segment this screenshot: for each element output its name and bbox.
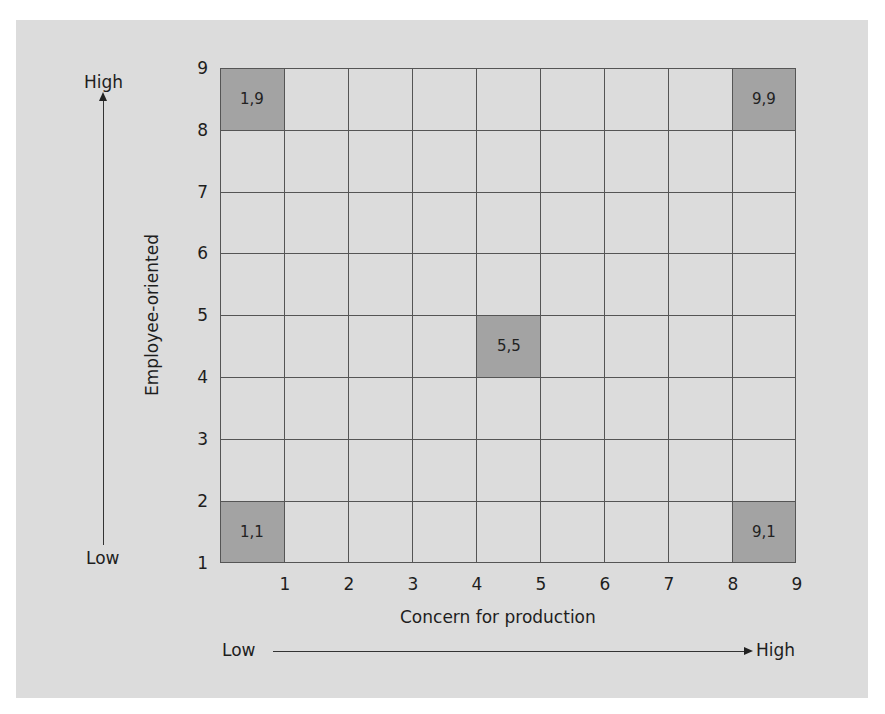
y-tick: 3 [188, 429, 208, 449]
y-low-label: Low [86, 548, 119, 568]
y-tick: 5 [188, 305, 208, 325]
x-tick: 4 [467, 574, 487, 594]
x-tick: 7 [659, 574, 679, 594]
grid-line [220, 192, 796, 193]
x-axis-arrow-icon [273, 651, 745, 652]
x-tick: 2 [339, 574, 359, 594]
grid-line [220, 501, 796, 502]
y-tick: 2 [188, 491, 208, 511]
x-tick: 9 [787, 574, 807, 594]
y-tick: 8 [188, 120, 208, 140]
y-tick: 7 [188, 182, 208, 202]
x-tick: 1 [275, 574, 295, 594]
x-tick: 8 [723, 574, 743, 594]
y-axis-arrow-icon [103, 100, 104, 545]
y-tick: 9 [188, 58, 208, 78]
grid-line [220, 315, 796, 316]
x-tick: 6 [595, 574, 615, 594]
x-axis-title: Concern for production [400, 607, 596, 627]
y-tick: 6 [188, 243, 208, 263]
y-tick: 4 [188, 367, 208, 387]
x-high-label: High [756, 640, 795, 660]
grid-line [220, 439, 796, 440]
x-tick: 3 [403, 574, 423, 594]
x-tick: 5 [531, 574, 551, 594]
grid-line [220, 130, 796, 131]
y-high-label: High [84, 72, 123, 92]
y-axis-title: Employee-oriented [142, 234, 162, 396]
y-tick: 1 [188, 553, 208, 573]
grid-line [220, 253, 796, 254]
x-low-label: Low [222, 640, 255, 660]
grid-line [220, 377, 796, 378]
